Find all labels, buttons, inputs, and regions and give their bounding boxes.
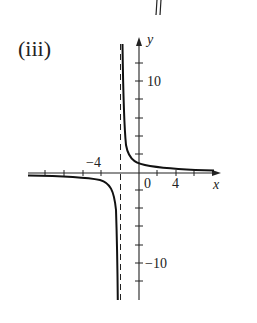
- x-axis: [28, 170, 221, 176]
- y-tick-label: 10: [147, 74, 161, 89]
- graph: −4 0 4 10 −10 y x: [0, 0, 257, 323]
- fragment-line: [160, 0, 161, 15]
- x-tick-label: −4: [86, 155, 101, 170]
- y-axis-arrow-icon: [136, 37, 142, 46]
- y-axis: [135, 37, 143, 300]
- curve-left-branch: [28, 176, 118, 301]
- x-tick-label: 4: [172, 176, 179, 191]
- y-tick-label: −10: [145, 256, 167, 271]
- fragment-line: [156, 0, 157, 15]
- x-axis-label: x: [212, 177, 220, 192]
- y-axis-label: y: [145, 32, 154, 47]
- x-tick-label: 0: [144, 176, 151, 191]
